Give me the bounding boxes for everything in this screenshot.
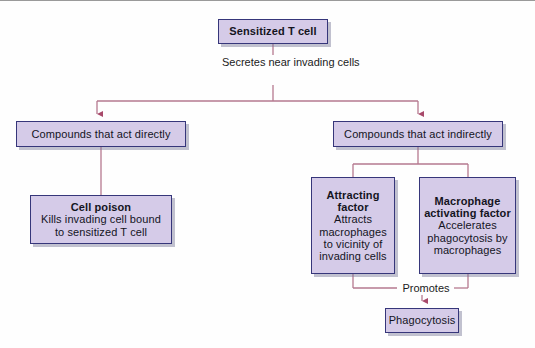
node-title: Sensitized T cell: [229, 25, 316, 37]
node-compounds-act-directly[interactable]: Compounds that act directly: [16, 121, 186, 147]
edge-label-promotes: Promotes: [398, 282, 454, 295]
node-title: Compounds that act indirectly: [344, 128, 492, 140]
node-attracting-factor[interactable]: Attracting factor Attracts macrophages t…: [311, 177, 395, 274]
node-description: Accelerates phagocytosis by macrophages: [424, 219, 511, 256]
node-compounds-act-indirectly[interactable]: Compounds that act indirectly: [333, 121, 503, 147]
edge-label-secretes: Secretes near invading cells: [222, 56, 324, 69]
node-title: Macrophage activating factor: [424, 195, 511, 220]
node-macrophage-activating-factor[interactable]: Macrophage activating factor Accelerates…: [419, 177, 516, 274]
node-title: Attracting factor: [316, 189, 390, 214]
flowchart-figure: Sensitized T cell Secretes near invading…: [0, 0, 535, 348]
node-title: Phagocytosis: [389, 314, 456, 326]
node-sensitized-t-cell[interactable]: Sensitized T cell: [218, 19, 328, 44]
connector-lines: [0, 1, 535, 348]
node-description: Attracts macrophages to vicinity of inva…: [316, 213, 390, 262]
node-description: Kills invading cell bound to sensitized …: [35, 213, 167, 238]
node-cell-poison[interactable]: Cell poison Kills invading cell bound to…: [30, 195, 172, 244]
node-phagocytosis[interactable]: Phagocytosis: [385, 308, 459, 333]
node-title: Compounds that act directly: [31, 128, 170, 140]
node-title: Cell poison: [71, 201, 131, 213]
